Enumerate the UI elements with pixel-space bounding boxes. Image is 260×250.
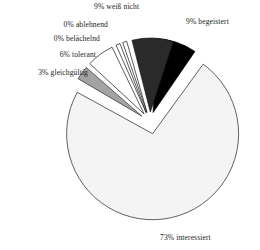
slice-label-interessiert: 73% interessiert bbox=[160, 234, 211, 242]
slice-label-begeistert: 9% begeistert bbox=[186, 18, 229, 26]
slice-label-tolerant: 6% tolerant bbox=[60, 51, 96, 59]
pie-slices-group: 9% begeistert73% interessiert3% gleichgü… bbox=[67, 38, 239, 220]
slice-label-weiss-nicht: 9% weiß nicht bbox=[94, 3, 139, 11]
slice-label-gleichgueltig: 3% gleichgültig bbox=[38, 69, 88, 77]
slice-label-ablehnend: 0% ablehnend bbox=[64, 21, 108, 29]
pie-chart-figure: 9% begeistert73% interessiert3% gleichgü… bbox=[0, 0, 260, 250]
slice-label-belaechelnd: 0% belächelnd bbox=[54, 35, 100, 43]
pie-chart-canvas: 9% begeistert73% interessiert3% gleichgü… bbox=[0, 0, 260, 250]
